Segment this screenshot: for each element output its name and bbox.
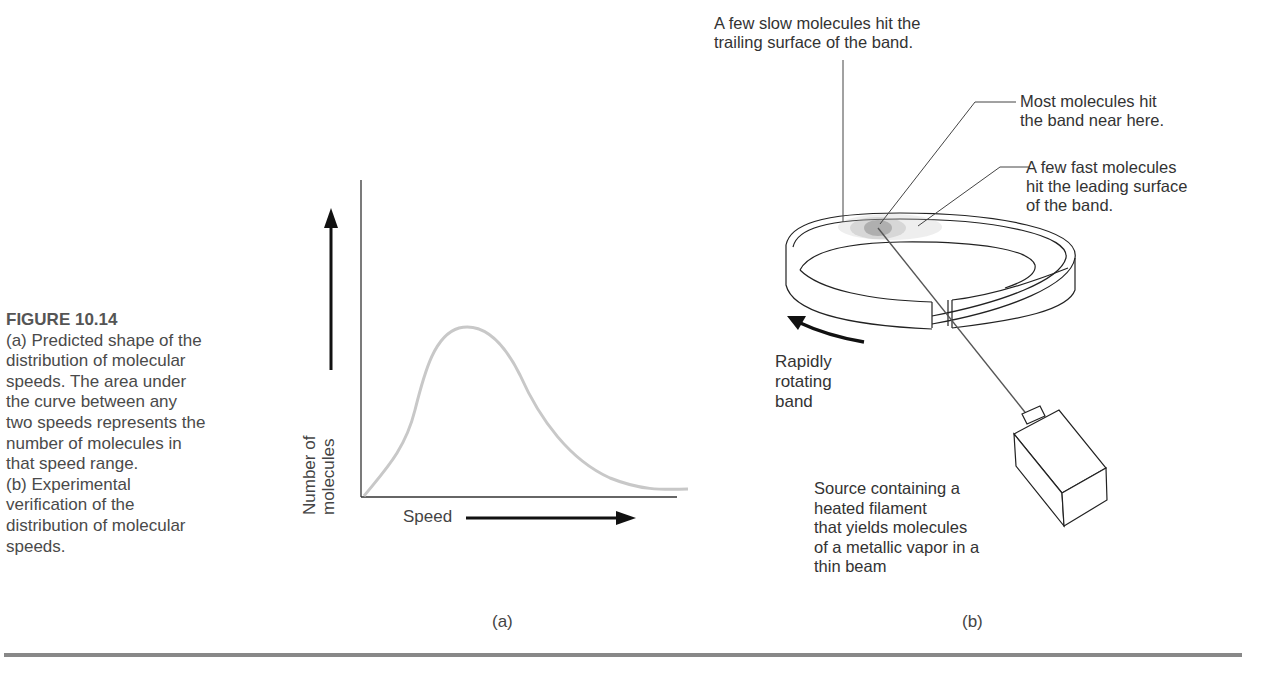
panel-a-axes xyxy=(361,180,677,497)
caption-line: the curve between any xyxy=(6,392,296,413)
annotation-line: rotating xyxy=(775,372,832,392)
annotation-line: of a metallic vapor in a xyxy=(814,538,979,558)
panel-a-label: (a) xyxy=(492,612,513,632)
y-axis-label: Number of molecules xyxy=(300,365,340,515)
vapor-source-box xyxy=(1014,406,1107,526)
caption-line: speeds. xyxy=(6,537,296,558)
annotation-line: A few slow molecules hit the xyxy=(714,14,920,33)
y-axis-arrow-icon xyxy=(324,208,338,370)
x-axis-label: Speed xyxy=(403,507,452,527)
caption-line: (b) Experimental xyxy=(6,475,296,496)
caption-line: speeds. The area under xyxy=(6,372,296,393)
distribution-curve xyxy=(364,327,688,496)
annotation-line: that yields molecules xyxy=(814,518,979,538)
annotation-line: of the band. xyxy=(1026,196,1187,215)
annotation-line: band xyxy=(775,392,832,412)
y-axis-label-line: Number of xyxy=(300,365,319,515)
caption-line: (a) Predicted shape of the xyxy=(6,331,296,352)
molecule-impact-stipple xyxy=(838,214,942,240)
annotation-line: the band near here. xyxy=(1020,111,1164,130)
caption-line: distribution of molecular xyxy=(6,351,296,372)
annotation-fast-molecules: A few fast molecules hit the leading sur… xyxy=(1026,158,1187,215)
annotation-leaders xyxy=(843,60,1030,226)
caption-line: that speed range. xyxy=(6,454,296,475)
figure-caption: FIGURE 10.14 (a) Predicted shape of the … xyxy=(6,310,296,557)
x-axis-arrow-icon xyxy=(466,511,636,525)
annotation-line: trailing surface of the band. xyxy=(714,33,920,52)
annotation-source: Source containing a heated filament that… xyxy=(814,479,979,577)
annotation-line: A few fast molecules xyxy=(1026,158,1187,177)
annotation-line: heated filament xyxy=(814,499,979,519)
caption-line: number of molecules in xyxy=(6,434,296,455)
annotation-line: thin beam xyxy=(814,557,979,577)
annotation-line: Rapidly xyxy=(775,352,832,372)
caption-line: two speeds represents the xyxy=(6,413,296,434)
rotation-arrow-icon xyxy=(787,316,864,342)
annotation-line: Source containing a xyxy=(814,479,979,499)
panel-b-label: (b) xyxy=(962,612,983,632)
caption-line: verification of the xyxy=(6,495,296,516)
annotation-line: hit the leading surface xyxy=(1026,177,1187,196)
bottom-rule xyxy=(4,653,1242,657)
caption-line: distribution of molecular xyxy=(6,516,296,537)
annotation-slow-molecules: A few slow molecules hit the trailing su… xyxy=(714,14,920,52)
y-axis-label-line: molecules xyxy=(319,365,338,515)
molecular-beam xyxy=(878,228,1028,416)
annotation-line: Most molecules hit xyxy=(1020,92,1164,111)
figure-number: FIGURE 10.14 xyxy=(6,310,296,331)
annotation-rotating-band: Rapidly rotating band xyxy=(775,352,832,412)
annotation-most-molecules: Most molecules hit the band near here. xyxy=(1020,92,1164,130)
